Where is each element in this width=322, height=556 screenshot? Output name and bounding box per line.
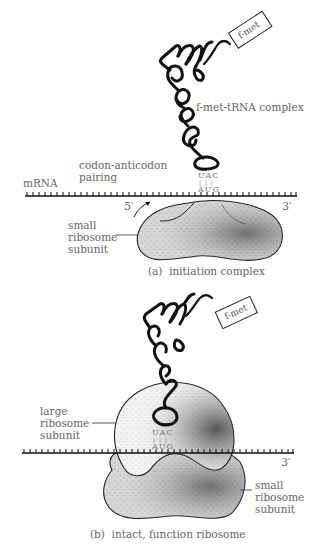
small-subunit-a-label-1: small: [68, 219, 96, 231]
diagram-artwork: [0, 0, 322, 556]
codon-a: AUG: [198, 186, 220, 194]
codon-b: AUG: [152, 443, 174, 451]
small-subunit-a-label-3: subunit: [68, 243, 108, 255]
large-subunit-b-label-3: subunit: [40, 429, 80, 441]
panel-a-artwork: [25, 11, 297, 260]
mrna-label: mRNA: [23, 177, 58, 189]
trna-complex-label: f-met-tRNA complex: [196, 101, 304, 113]
caption-b: (b) intact, function ribosome: [90, 528, 246, 540]
small-subunit-b-label-3: subunit: [255, 503, 295, 515]
codon-anticodon-label: codon-anticodon: [79, 159, 167, 171]
small-subunit-b-label-1: small: [255, 479, 283, 491]
pairing-label: pairing: [79, 171, 117, 183]
small-subunit-a-shape: [134, 201, 282, 261]
five-prime-a: 5′: [124, 201, 134, 213]
ribosome-diagram: f-met f-met-tRNA complex codon-anticodon…: [0, 0, 322, 556]
small-subunit-b-label-2: ribosome: [255, 491, 304, 503]
caption-a: (a) initiation complex: [148, 265, 265, 277]
small-subunit-a-label-2: ribosome: [68, 231, 117, 243]
three-prime-a: 3′: [282, 201, 292, 213]
large-subunit-b-label-2: ribosome: [40, 417, 89, 429]
three-prime-b: 3′: [281, 457, 291, 469]
mrna-strand-a: [25, 192, 297, 196]
large-subunit-b-label-1: large: [40, 405, 68, 417]
